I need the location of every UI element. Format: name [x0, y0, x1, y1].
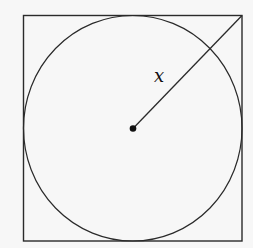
- segment-label: x: [154, 65, 164, 86]
- center-point: [130, 125, 137, 132]
- diagram-canvas: x: [0, 0, 253, 248]
- segment-center-to-corner: [133, 16, 242, 129]
